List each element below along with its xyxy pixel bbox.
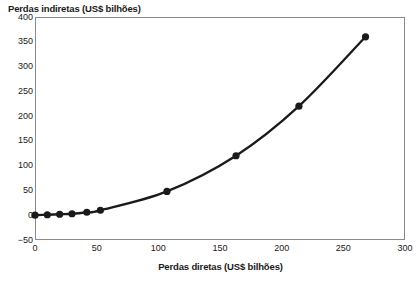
chart-figure: Perdas indiretas (US$ bilhões) −50050100… (0, 0, 419, 287)
x-tick-label: 200 (262, 244, 302, 253)
x-tick-label: 150 (200, 244, 240, 253)
plot-area (35, 17, 405, 240)
y-tick-label: 0 (3, 211, 33, 220)
x-tick-label: 250 (323, 244, 363, 253)
y-tick-label: 50 (3, 186, 33, 195)
y-tick-label: 300 (3, 62, 33, 71)
y-tick-label: 250 (3, 87, 33, 96)
x-axis-title: Perdas diretas (US$ bilhões) (136, 261, 283, 272)
y-tick-label: 150 (3, 136, 33, 145)
y-tick-label: 350 (3, 37, 33, 46)
x-axis-title-wrap: Perdas diretas (US$ bilhões) (0, 261, 419, 272)
x-tick-label: 0 (15, 244, 55, 253)
y-tick-label: 200 (3, 112, 33, 121)
x-tick-label: 100 (138, 244, 178, 253)
x-tick-label: 300 (385, 244, 419, 253)
y-tick-label: 400 (3, 13, 33, 22)
y-tick-label: 100 (3, 161, 33, 170)
x-tick-label: 50 (77, 244, 117, 253)
